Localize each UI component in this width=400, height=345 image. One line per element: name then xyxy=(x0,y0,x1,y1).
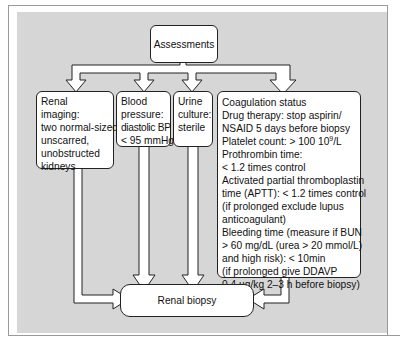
coag-line: Coagulation status xyxy=(222,96,356,109)
coag-line: and high risk): < 10min xyxy=(222,252,356,265)
arrow-blood-pressure xyxy=(133,146,155,291)
branch-arrows xyxy=(66,62,296,94)
renal-imaging-box: Renal imaging: two normal-sized, unscarr… xyxy=(36,91,114,169)
blood-pressure-line: Blood xyxy=(121,95,166,108)
coag-platelet-text: Platelet count: > 100 10 xyxy=(222,136,329,147)
coag-line: Bleeding time (measure if BUN xyxy=(222,226,356,239)
blood-pressure-line: diastolic BP xyxy=(121,121,166,134)
coag-line: (if prolonged give DDAVP xyxy=(222,265,356,278)
renal-imaging-line: Renal xyxy=(41,95,109,108)
urine-culture-line: culture: xyxy=(178,108,208,121)
renal-imaging-line: unobstructed xyxy=(41,147,109,160)
renal-biopsy-label: Renal biopsy xyxy=(158,294,217,307)
renal-imaging-line: unscarred, xyxy=(41,134,109,147)
assessments-box: Assessments xyxy=(150,25,218,63)
coag-line: time (APTT): < 1.2 times control xyxy=(222,187,356,200)
coag-platelet-unit: /L xyxy=(333,136,342,147)
urine-culture-line: Urine xyxy=(178,95,208,108)
urine-culture-box: Urine culture: sterile xyxy=(173,91,213,147)
renal-imaging-line: kidneys xyxy=(41,160,109,173)
renal-biopsy-box: Renal biopsy xyxy=(120,284,254,317)
coag-line: > 60 mg/dL (urea > 20 mmol/L) xyxy=(222,239,356,252)
coag-line: < 1.2 times control xyxy=(222,161,356,174)
coag-line: Prothrombin time: xyxy=(222,148,356,161)
coag-line: Drug therapy: stop aspirin/ xyxy=(222,109,356,122)
coag-line: (if prolonged exclude lupus xyxy=(222,200,356,213)
coagulation-status-box: Coagulation status Drug therapy: stop as… xyxy=(217,91,361,278)
coag-line: Activated partial thromboplastin xyxy=(222,174,356,187)
renal-imaging-line: imaging: xyxy=(41,108,109,121)
blood-pressure-line: < 95 mmHg xyxy=(121,134,166,147)
assessments-label: Assessments xyxy=(154,38,215,51)
coag-platelet-line: Platelet count: > 100 109/L xyxy=(222,135,356,148)
coag-line: anticoagulant) xyxy=(222,213,356,226)
arrow-urine-culture xyxy=(182,146,204,291)
coag-line: NSAID 5 days before biopsy xyxy=(222,122,356,135)
blood-pressure-box: Blood pressure: diastolic BP < 95 mmHg xyxy=(116,91,171,147)
renal-imaging-line: two normal-sized, xyxy=(41,121,109,134)
blood-pressure-line: pressure: xyxy=(121,108,166,121)
urine-culture-line: sterile xyxy=(178,121,208,134)
